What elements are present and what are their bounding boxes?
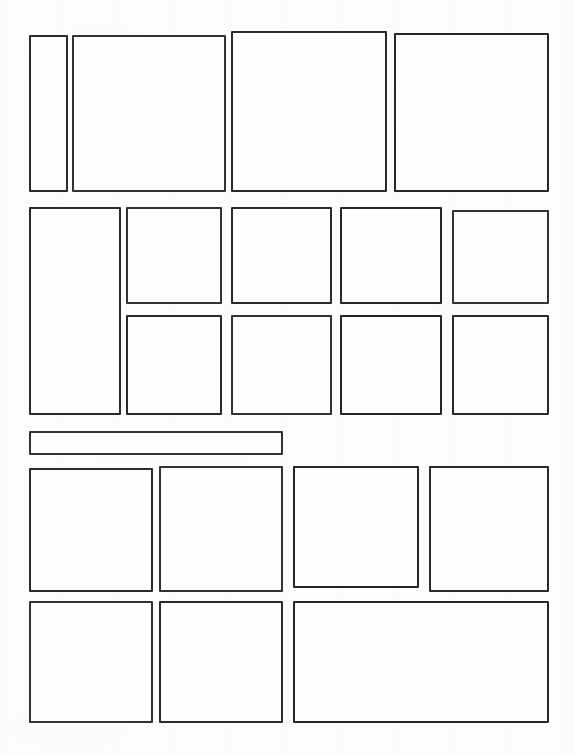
placeholder-frame	[159, 601, 283, 723]
placeholder-frame	[340, 207, 442, 304]
placeholder-frame	[429, 466, 549, 592]
placeholder-frame	[452, 315, 549, 415]
scanned-page	[0, 0, 575, 755]
placeholder-frame	[293, 466, 419, 588]
placeholder-frame	[293, 601, 549, 723]
placeholder-frame	[29, 431, 283, 455]
placeholder-frame	[340, 315, 442, 415]
placeholder-frame	[126, 315, 222, 415]
placeholder-frame	[126, 207, 222, 304]
placeholder-frame	[231, 207, 332, 304]
placeholder-frame	[29, 468, 153, 592]
placeholder-frame	[231, 315, 332, 415]
placeholder-frame	[452, 210, 549, 304]
placeholder-frame	[72, 35, 226, 192]
placeholder-frame	[29, 35, 68, 192]
placeholder-frame	[159, 466, 283, 592]
placeholder-frame	[394, 33, 549, 192]
placeholder-frame	[231, 31, 387, 192]
placeholder-frame	[29, 207, 121, 415]
placeholder-frame	[29, 601, 153, 723]
